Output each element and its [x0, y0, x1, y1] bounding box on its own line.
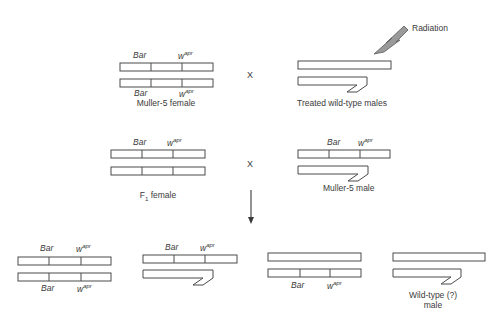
gene-label-white: wapr	[327, 280, 342, 291]
gene-label-bar: Bar	[133, 137, 146, 147]
treated-male-chromosomes	[298, 61, 391, 92]
progeny-1-chromosomes	[18, 257, 111, 281]
gene-label-bar: Bar	[134, 88, 147, 98]
muller5-female-chromosomes	[120, 63, 213, 87]
muller5-female-label: Muller-5 female	[116, 98, 216, 108]
cross-symbol: X	[247, 70, 253, 80]
cross-symbol: X	[247, 159, 253, 169]
gene-label-bar: Bar	[327, 137, 340, 147]
gene-label-white: wapr	[167, 137, 182, 148]
gene-label-bar: Bar	[41, 283, 54, 293]
progeny-3-chromosomes	[268, 253, 361, 277]
radiation-bolt-icon	[374, 26, 408, 54]
gene-label-white: wapr	[77, 283, 92, 294]
wildtype-male-label: Wild-type (?)male	[393, 290, 473, 310]
down-arrow-icon	[248, 190, 254, 224]
gene-label-white: wapr	[76, 243, 91, 254]
gene-label-bar: Bar	[291, 280, 304, 290]
f1-female-label: F1 female	[108, 190, 208, 202]
gene-label-bar: Bar	[165, 242, 178, 252]
gene-label-bar: Bar	[133, 50, 146, 60]
treated-males-label: Treated wild-type males	[297, 98, 387, 108]
muller5-male-chromosomes	[298, 150, 390, 181]
gene-label-white: wapr	[200, 242, 215, 253]
progeny-4-chromosomes	[393, 253, 485, 284]
gene-label-bar: Bar	[40, 243, 53, 253]
radiation-label: Radiation	[412, 23, 448, 33]
muller5-male-label: Muller-5 male	[323, 183, 375, 193]
f1-female-chromosomes	[111, 150, 205, 175]
gene-label-white: wapr	[358, 137, 373, 148]
gene-label-white: wapr	[178, 50, 193, 61]
progeny-2-chromosomes	[143, 255, 237, 285]
